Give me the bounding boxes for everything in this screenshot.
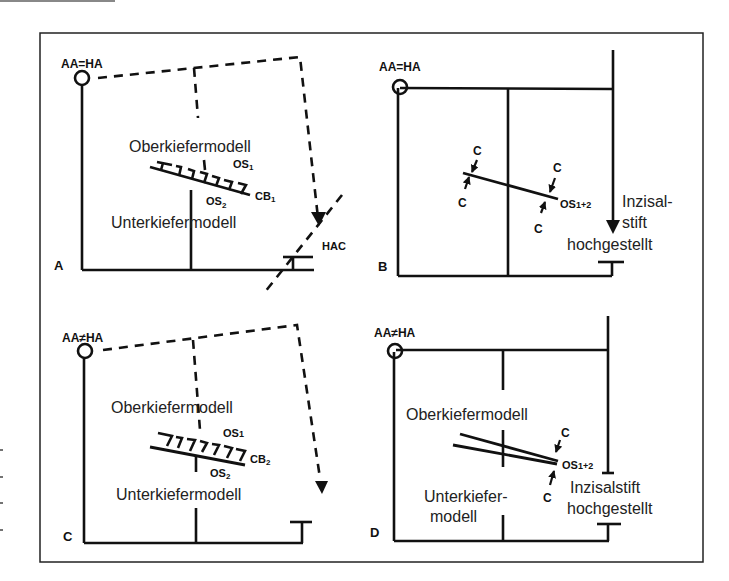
svg-text:OS1+2: OS1+2	[562, 459, 593, 471]
axis-label-c: AA≠HA	[62, 331, 104, 345]
axis-label-b: AA=HA	[379, 60, 421, 74]
hinge-axis-icon	[78, 344, 92, 358]
svg-text:OS1: OS1	[223, 427, 244, 439]
hinge-axis-icon	[75, 71, 89, 85]
svg-text:Unterkiefermodell: Unterkiefermodell	[116, 486, 241, 503]
svg-text:HAC: HAC	[322, 240, 346, 252]
panel-a: AA=HA HAC Oberkiefermodell Unterkiefermo…	[54, 57, 346, 292]
svg-text:OS2: OS2	[206, 195, 227, 210]
svg-text:Inzisalstift: Inzisalstift	[570, 479, 641, 496]
svg-text:Unterkiefermodell: Unterkiefermodell	[111, 214, 236, 231]
svg-text:OS2: OS2	[210, 467, 231, 481]
svg-text:C: C	[458, 196, 467, 210]
svg-text:Unterkiefer-: Unterkiefer-	[424, 488, 508, 505]
svg-text:C: C	[561, 426, 570, 440]
svg-text:C: C	[473, 144, 482, 158]
axis-label-d: AA≠HA	[374, 326, 416, 340]
axis-label-a: AA=HA	[61, 57, 103, 71]
panel-d: AA≠HA C C OS1+2 Oberkiefermodell Unterki…	[370, 316, 653, 541]
svg-text:Inzisal-: Inzisal-	[622, 193, 673, 210]
svg-text:Oberkiefermodell: Oberkiefermodell	[406, 406, 528, 423]
svg-text:stift: stift	[622, 214, 647, 231]
svg-text:hochgestellt: hochgestellt	[567, 500, 653, 517]
svg-text:Oberkiefermodell: Oberkiefermodell	[111, 399, 233, 416]
svg-text:C: C	[553, 161, 562, 175]
arrow-down-icon	[606, 220, 620, 234]
panel-c: AA≠HA Oberkiefermodell Unterkiefermodell…	[62, 325, 328, 544]
svg-text:C: C	[534, 222, 543, 236]
panel-letter-b: B	[378, 259, 387, 274]
margin-ticks	[0, 450, 3, 530]
svg-text:Oberkiefermodell: Oberkiefermodell	[129, 138, 251, 155]
svg-text:modell: modell	[430, 508, 477, 525]
panel-b: AA=HA C C C C OS1+2 Inzisal- stift hochg…	[378, 50, 673, 276]
arrow-down-icon	[315, 481, 328, 494]
svg-text:OS1+2: OS1+2	[560, 198, 591, 210]
svg-text:C: C	[543, 491, 552, 505]
svg-text:CB2: CB2	[250, 453, 271, 467]
svg-text:CB1: CB1	[255, 190, 276, 204]
panel-letter-d: D	[370, 525, 379, 540]
svg-text:hochgestellt: hochgestellt	[567, 236, 653, 253]
panel-letter-a: A	[54, 258, 64, 273]
panel-letter-c: C	[63, 529, 73, 544]
svg-text:OS1: OS1	[233, 158, 254, 172]
